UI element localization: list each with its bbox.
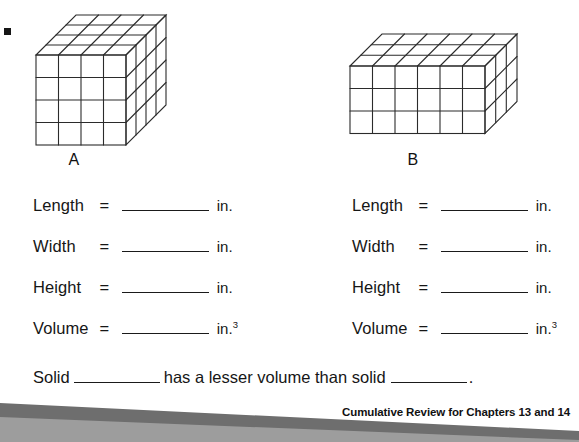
worksheet-page: A <box>0 0 579 442</box>
unit-label-length-a: in. <box>217 197 233 214</box>
field-label-height-b: Height <box>352 278 414 297</box>
solid-b-drawing <box>338 22 528 147</box>
answer-blank-volume-b[interactable] <box>441 320 528 334</box>
field-row-height-b: Height = in. <box>352 278 557 319</box>
field-label-volume-a: Volume <box>33 319 95 338</box>
answer-blank-length-a[interactable] <box>122 197 209 211</box>
equals-sign-length-b: = <box>419 196 436 215</box>
answer-blank-width-b[interactable] <box>441 238 528 252</box>
sentence-middle: has a lesser volume than solid <box>164 368 386 386</box>
unit-label-volume-b: in.3 <box>536 320 557 337</box>
field-label-width-b: Width <box>352 237 414 256</box>
equals-sign-height-b: = <box>419 278 436 297</box>
field-row-height-a: Height = in. <box>33 278 238 319</box>
unit-label-volume-a: in.3 <box>217 320 238 337</box>
field-row-width-b: Width = in. <box>352 237 557 278</box>
comparison-sentence: Solidhas a lesser volume than solid. <box>33 368 473 387</box>
answer-blank-height-b[interactable] <box>441 279 528 293</box>
fields-column-a: Length = in. Width = in. Height = in. Vo… <box>33 196 238 360</box>
unit-label-height-a: in. <box>217 279 233 296</box>
fields-column-b: Length = in. Width = in. Height = in. Vo… <box>352 196 557 360</box>
equals-sign-length-a: = <box>100 196 117 215</box>
field-row-width-a: Width = in. <box>33 237 238 278</box>
unit-label-length-b: in. <box>536 197 552 214</box>
equals-sign-width-a: = <box>100 237 117 256</box>
unit-exponent-volume-a: 3 <box>233 319 238 330</box>
field-label-height-a: Height <box>33 278 95 297</box>
equals-sign-width-b: = <box>419 237 436 256</box>
answer-blank-height-a[interactable] <box>122 279 209 293</box>
unit-exponent-volume-b: 3 <box>552 319 557 330</box>
field-label-width-a: Width <box>33 237 95 256</box>
unit-label-width-b: in. <box>536 238 552 255</box>
unit-label-width-a: in. <box>217 238 233 255</box>
equals-sign-volume-a: = <box>100 319 117 338</box>
solid-a-figure <box>26 8 176 153</box>
field-row-length-b: Length = in. <box>352 196 557 237</box>
answer-blank-greater-solid[interactable] <box>391 369 467 383</box>
equals-sign-height-a: = <box>100 278 117 297</box>
equals-sign-volume-b: = <box>419 319 436 338</box>
answer-blank-volume-a[interactable] <box>122 320 209 334</box>
answer-blank-length-b[interactable] <box>441 197 528 211</box>
solid-a-label: A <box>50 151 98 169</box>
field-row-length-a: Length = in. <box>33 196 238 237</box>
answer-blank-lesser-solid[interactable] <box>74 369 160 383</box>
unit-label-height-b: in. <box>536 279 552 296</box>
field-label-volume-b: Volume <box>352 319 414 338</box>
solid-b-label: B <box>389 151 437 169</box>
field-label-length-b: Length <box>352 196 414 215</box>
solid-b-figure <box>338 22 528 147</box>
field-row-volume-b: Volume = in.3 <box>352 319 557 360</box>
unit-text-volume-b: in. <box>536 320 552 337</box>
sentence-lead: Solid <box>33 368 70 386</box>
sentence-period: . <box>469 368 474 386</box>
field-label-length-a: Length <box>33 196 95 215</box>
unit-text-volume-a: in. <box>217 320 233 337</box>
item-marker-square <box>4 28 11 35</box>
answer-blank-width-a[interactable] <box>122 238 209 252</box>
footer-chapter-label: Cumulative Review for Chapters 13 and 14 <box>342 406 570 418</box>
field-row-volume-a: Volume = in.3 <box>33 319 238 360</box>
solid-a-drawing <box>26 8 176 153</box>
